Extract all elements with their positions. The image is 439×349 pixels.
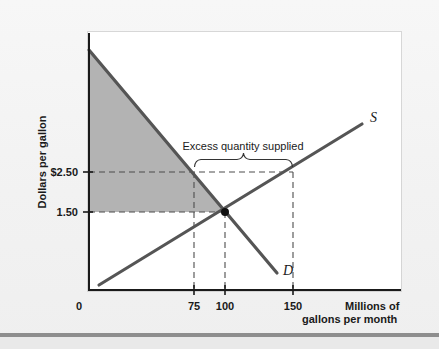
x-axis-title-line1: Millions of [345, 300, 400, 312]
supply-demand-chart: $2.50 1.50 75 100 150 0 Dollars per gall… [0, 0, 439, 349]
y-axis-title: Dollars per gallon [36, 115, 48, 208]
excess-quantity-supplied-label: Excess quantity supplied [182, 140, 303, 152]
origin-label: 0 [76, 300, 82, 312]
x-tick-label-100: 100 [216, 300, 234, 312]
y-tick-label-250: $2.50 [50, 166, 78, 178]
page-bottom-band [0, 333, 439, 349]
x-axis-title-line2: gallons per month [302, 313, 398, 325]
excess-quantity-bracket [195, 153, 293, 167]
equilibrium-point-marker [221, 208, 229, 216]
x-tick-label-75: 75 [188, 300, 200, 312]
supply-curve-label: S [370, 110, 377, 125]
demand-curve-label: D [282, 263, 293, 278]
x-tick-label-150: 150 [284, 300, 302, 312]
y-tick-label-150: 1.50 [57, 206, 78, 218]
figure-root: $2.50 1.50 75 100 150 0 Dollars per gall… [0, 0, 439, 349]
